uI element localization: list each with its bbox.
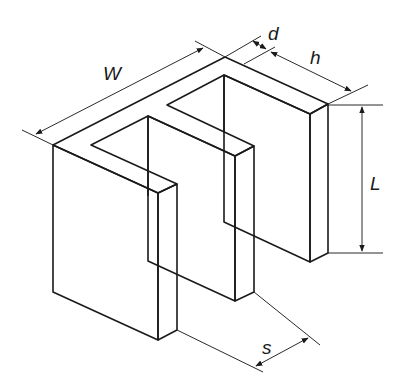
middle-panel-face <box>148 116 235 301</box>
back-panel-face <box>224 75 310 262</box>
dimension-s: s <box>177 292 320 372</box>
top-plate-surface <box>53 57 328 193</box>
dimension-W: W <box>22 41 225 145</box>
back-right-panel <box>224 75 328 262</box>
label-W: W <box>103 63 123 84</box>
dimension-d: d <box>225 23 280 64</box>
middle-panel <box>148 116 254 301</box>
label-s: s <box>262 337 272 358</box>
top-plate <box>53 57 328 193</box>
back-panel-end-strip <box>310 104 328 262</box>
label-d: d <box>268 23 280 44</box>
meander-structure-diagram: W d h L s <box>0 0 410 388</box>
label-h: h <box>310 47 321 68</box>
front-panel-end-strip <box>158 184 177 340</box>
front-left-panel <box>53 145 177 340</box>
label-L: L <box>370 173 381 194</box>
dimension-L: L <box>328 105 383 253</box>
front-panel-face <box>53 145 158 340</box>
middle-panel-end-strip <box>235 146 254 301</box>
dimension-h: h <box>271 47 368 104</box>
